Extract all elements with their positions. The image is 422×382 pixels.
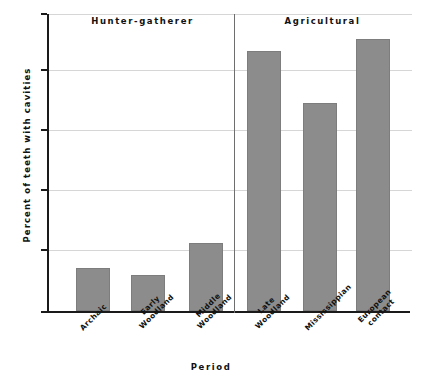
- group-header-hunter-gatherer: Hunter-gatherer: [55, 16, 230, 26]
- group-divider: [234, 14, 235, 313]
- gridline-25: [49, 14, 412, 15]
- x-tick-european-contact: European contact: [356, 318, 422, 338]
- bar-late-woodland[interactable]: [247, 51, 281, 311]
- bar-chart: Percent of teeth with cavities 25 20 15 …: [0, 0, 422, 382]
- plot-area: [47, 14, 410, 313]
- x-axis-title: Period: [0, 362, 422, 372]
- bar-mississippian[interactable]: [303, 103, 337, 311]
- bar-european-contact[interactable]: [356, 39, 390, 311]
- group-header-agricultural: Agricultural: [235, 16, 410, 26]
- y-axis-title: Percent of teeth with cavities: [22, 35, 32, 275]
